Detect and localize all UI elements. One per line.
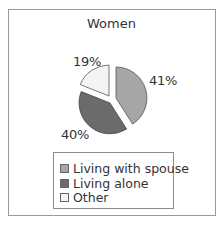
slice-living-with-spouse [116, 67, 147, 124]
legend-item-living-alone: Living alone [60, 176, 149, 190]
legend-label: Other [73, 190, 109, 205]
legend-label: Living alone [73, 176, 149, 191]
legend-swatch-icon [60, 179, 69, 188]
legend-swatch-icon [60, 193, 69, 202]
legend-label: Living with spouse [73, 161, 189, 176]
slice-other [80, 65, 109, 96]
label-living-with-spouse: 41% [149, 73, 177, 88]
label-other: 19% [73, 54, 101, 69]
legend-swatch-icon [60, 164, 69, 173]
legend-item-other: Other [60, 190, 109, 204]
label-living-alone: 40% [61, 127, 89, 142]
legend-item-living-with-spouse: Living with spouse [60, 161, 189, 175]
chart-legend: Living with spouse Living alone Other [53, 152, 174, 209]
